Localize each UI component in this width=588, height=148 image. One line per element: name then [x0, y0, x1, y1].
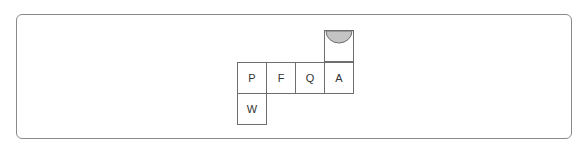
net-face-q: Q [295, 62, 325, 94]
net-face-p: P [237, 62, 267, 94]
face-label: F [278, 72, 285, 84]
net-face-a: A [324, 62, 354, 94]
face-label: A [335, 72, 342, 84]
semicircle-icon [325, 31, 353, 61]
net-face-top-semicircle [324, 30, 354, 62]
face-label: Q [306, 72, 315, 84]
net-face-f: F [266, 62, 296, 94]
face-label: P [248, 72, 255, 84]
net-face-w: W [237, 93, 267, 125]
face-label: W [247, 103, 257, 115]
